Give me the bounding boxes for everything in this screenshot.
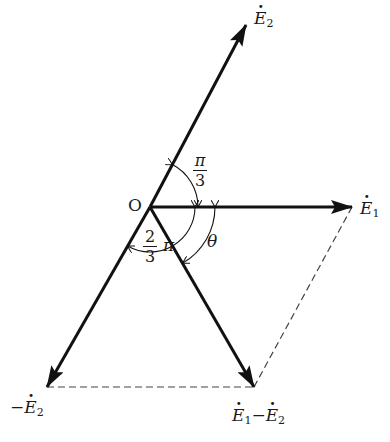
label-e1-minus-e2: E1−E2 [232,405,285,427]
diff-e2-symbol: E [266,405,278,425]
e1-symbol: E [360,198,372,218]
neg-e2-symbol: E [24,397,36,417]
origin-label: O [128,195,142,215]
dashed-line-right [254,207,352,387]
e2-symbol: E [254,8,266,28]
diff-e2-subscript: 2 [278,414,285,427]
twothird-denominator: 3 [145,248,155,265]
twothird-numerator: 2 [145,228,155,245]
e2-subscript: 2 [266,17,273,30]
vector-e1-minus-e2 [150,207,254,387]
phasor-diagram-canvas [0,0,390,442]
angle-label-theta: θ [207,231,217,251]
e1-subscript: 1 [372,207,379,220]
pi3-denominator: 3 [195,172,205,189]
angle-label-pi-over-3: π 3 [193,152,207,189]
label-e2: E2 [254,8,273,30]
diff-e1-symbol: E [232,405,244,425]
vector-neg-e2 [47,207,150,387]
angle-label-two-thirds: 2 3 [143,228,157,265]
label-e1: E1 [360,198,379,220]
pi3-numerator: π [195,152,206,169]
angle-label-two-thirds-pi: π [163,235,174,255]
neg-sign: − [10,397,24,417]
label-neg-e2: −E2 [10,397,44,419]
diff-minus: − [251,405,265,425]
neg-e2-subscript: 2 [37,406,44,419]
